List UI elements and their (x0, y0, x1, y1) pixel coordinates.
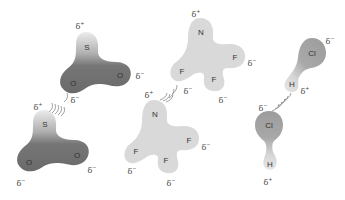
atom-label: F (212, 75, 217, 84)
atom-label: O (117, 71, 123, 80)
atom-label: S (42, 120, 47, 129)
atom-label: F (164, 156, 169, 165)
atom-label: H (267, 160, 273, 169)
atom-label: S (84, 43, 89, 52)
partial-charge-label: δ− (135, 70, 144, 81)
atom-label: O (74, 151, 80, 160)
so2-molecule-top: S O O (60, 32, 131, 93)
partial-charge-label: δ− (16, 177, 25, 188)
atom-label: O (70, 79, 76, 88)
nf3-molecule-top: N F F F (170, 18, 245, 91)
so2-interaction-dashes (49, 93, 68, 116)
atom-label: O (26, 158, 32, 167)
partial-charge-label: δ+ (75, 20, 84, 31)
partial-charge-label: δ− (127, 165, 136, 176)
hcl-molecule-top: Cl H (284, 38, 326, 92)
partial-charge-label: δ− (201, 141, 210, 152)
dipole-interaction-diagram: S O O S O O N F F F N F F F Cl H Cl H (0, 0, 345, 200)
atom-label: F (233, 53, 238, 62)
partial-charge-label: δ+ (33, 101, 42, 112)
partial-charge-label: δ− (258, 102, 267, 113)
nf3-interaction-dashes (160, 85, 177, 102)
partial-charge-label: δ− (87, 164, 96, 175)
partial-charge-label: δ+ (144, 89, 153, 100)
partial-charge-label: δ− (325, 35, 334, 46)
atom-label: F (134, 147, 139, 156)
atom-label: F (180, 67, 185, 76)
hcl-interaction-dashes (272, 93, 291, 111)
partial-charge-label: δ− (183, 85, 192, 96)
atom-label: H (289, 80, 295, 89)
so2-molecule-bottom: S O O (17, 110, 89, 171)
atom-label: N (152, 110, 158, 119)
partial-charge-label: δ− (70, 94, 79, 105)
partial-charge-label: δ− (218, 94, 227, 105)
atom-label: Cl (265, 121, 273, 130)
partial-charge-label: δ+ (300, 85, 309, 96)
partial-charge-label: δ− (166, 177, 175, 188)
partial-charge-label: δ− (247, 57, 256, 68)
atom-label: Cl (308, 49, 316, 58)
atom-label: F (187, 136, 192, 145)
nf3-molecule-bottom: N F F F (124, 100, 199, 173)
hcl-molecule-bottom: Cl H (255, 111, 283, 170)
atom-label: N (198, 28, 204, 37)
partial-charge-label: δ+ (263, 176, 272, 187)
partial-charge-label: δ+ (191, 8, 200, 19)
